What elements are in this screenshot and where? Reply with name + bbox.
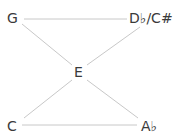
node-e: E xyxy=(74,65,83,79)
node-ab: A♭ xyxy=(141,119,157,133)
edge-g-e xyxy=(22,24,72,65)
node-g: G xyxy=(7,11,18,25)
node-db-csharp: D♭/C# xyxy=(129,11,173,25)
node-c: C xyxy=(7,119,17,133)
edge-db-e xyxy=(87,27,140,65)
edge-e-c xyxy=(24,80,72,118)
edge-e-ab xyxy=(87,80,138,118)
